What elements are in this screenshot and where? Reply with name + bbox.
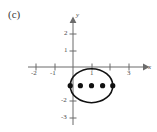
y-tick-label-minus3: -3 — [61, 114, 67, 121]
data-point — [110, 83, 115, 88]
panel-label: (c) — [8, 9, 20, 20]
y-tick-label-2: 2 — [64, 30, 68, 37]
data-point — [100, 83, 105, 88]
x-tick-label-minus2: -2 — [31, 70, 37, 77]
data-points — [68, 83, 116, 88]
data-point — [78, 83, 83, 88]
x-tick-label-minus1: -1 — [50, 70, 56, 77]
x-axis-label: x — [148, 64, 151, 71]
y-tick-label-minus2: -2 — [61, 97, 67, 104]
plot-canvas — [0, 0, 157, 132]
x-tick-label-1: 1 — [90, 70, 94, 77]
y-axis-label: y — [76, 12, 79, 19]
y-tick-label-1: 1 — [64, 47, 68, 54]
data-point — [89, 83, 94, 88]
figure-panel: (c) — [0, 0, 157, 132]
data-point — [68, 83, 73, 88]
x-tick-label-3: 3 — [127, 70, 131, 77]
